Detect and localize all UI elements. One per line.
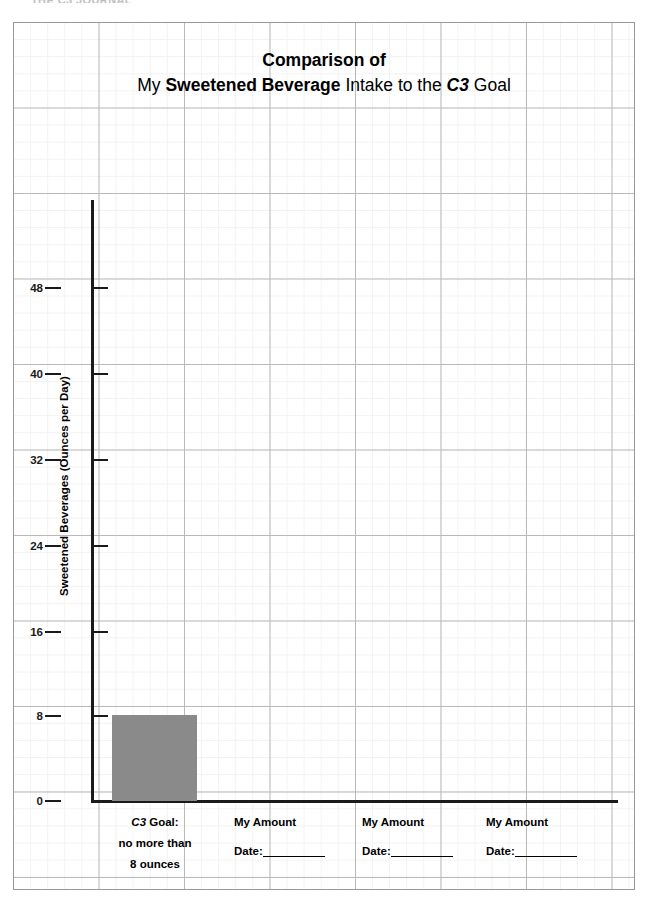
- cutoff-page-header: THE C3 JOURNAL: [31, 0, 132, 3]
- y-tick-dash-40: [45, 373, 61, 375]
- category-label-c3-goal: C3 Goal: no more than 8 ounces: [96, 812, 214, 875]
- c3-goal-rest-text: Goal:: [146, 816, 179, 828]
- title-line-1: Comparison of: [13, 48, 635, 73]
- y-tick-label-48: 48: [30, 281, 43, 295]
- y-tick-dash-24: [45, 545, 61, 547]
- date-label-1: Date:: [234, 845, 263, 857]
- y-tick-mark-48: [94, 287, 108, 289]
- y-tick-mark-24: [94, 545, 108, 547]
- y-tick-mark-40: [94, 373, 108, 375]
- date-label-2: Date:: [362, 845, 391, 857]
- title-middle: Intake to the: [341, 75, 447, 95]
- c3-goal-line-2: no more than: [96, 833, 214, 854]
- y-tick-dash-0: [45, 800, 61, 802]
- c3-goal-c3-text: C3: [131, 816, 146, 828]
- date-blank-field-1[interactable]: [263, 844, 325, 857]
- graph-paper-grid: [13, 22, 635, 890]
- y-tick-mark-32: [94, 459, 108, 461]
- y-tick-label-40: 40: [30, 367, 43, 381]
- y-tick-label-32: 32: [30, 453, 43, 467]
- c3-goal-line-1: C3 Goal:: [96, 812, 214, 833]
- date-blank-field-2[interactable]: [391, 844, 453, 857]
- worksheet-page: THE C3 JOURNAL Comparison of My Sweetene…: [0, 0, 662, 915]
- y-tick-dash-8: [45, 715, 61, 717]
- date-blank-field-3[interactable]: [515, 844, 577, 857]
- y-tick-dash-16: [45, 631, 61, 633]
- y-axis-line: [91, 200, 94, 803]
- my-amount-title-3: My Amount: [486, 812, 636, 833]
- page-title: Comparison of My Sweetened Beverage Inta…: [13, 48, 635, 98]
- y-tick-dash-32: [45, 459, 61, 461]
- category-label-my-amount-3: My Amount Date:: [486, 812, 636, 862]
- title-prefix: My: [137, 75, 165, 95]
- y-tick-dash-48: [45, 287, 61, 289]
- y-tick-label-8: 8: [37, 709, 43, 723]
- bar-c3-goal: [112, 715, 197, 801]
- y-tick-mark-16: [94, 631, 108, 633]
- title-emphasis-c3: C3: [447, 75, 469, 95]
- date-label-3: Date:: [486, 845, 515, 857]
- c3-goal-line-3: 8 ounces: [96, 854, 214, 875]
- y-axis-title: Sweetened Beverages (Ounces per Day): [58, 336, 70, 636]
- y-tick-mark-8: [94, 715, 108, 717]
- y-tick-label-16: 16: [30, 625, 43, 639]
- y-tick-label-24: 24: [30, 539, 43, 553]
- title-suffix: Goal: [469, 75, 511, 95]
- title-emphasis-sweetened-beverage: Sweetened Beverage: [165, 75, 340, 95]
- date-row-3: Date:: [486, 841, 636, 862]
- y-tick-label-0: 0: [37, 794, 43, 808]
- title-line-2: My Sweetened Beverage Intake to the C3 G…: [13, 73, 635, 98]
